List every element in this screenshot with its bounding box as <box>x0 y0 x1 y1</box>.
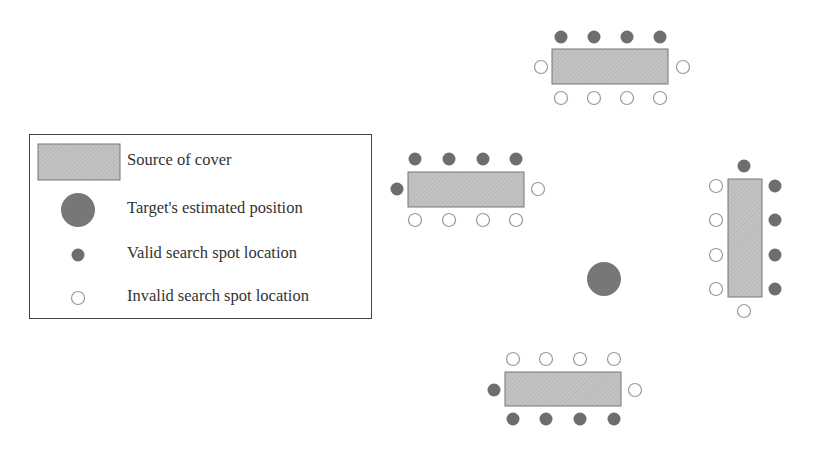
legend-target-symbol <box>61 193 95 227</box>
valid-spot <box>477 153 490 166</box>
invalid-spot <box>710 249 723 262</box>
valid-spot <box>738 160 751 173</box>
invalid-spot <box>540 353 553 366</box>
invalid-spot <box>574 353 587 366</box>
invalid-spot <box>710 283 723 296</box>
valid-spot <box>409 153 422 166</box>
valid-spot <box>588 31 601 44</box>
valid-spot <box>608 413 621 426</box>
invalid-spot <box>532 183 545 196</box>
valid-spot <box>507 413 520 426</box>
legend-invalid-symbol <box>72 292 85 305</box>
invalid-spot <box>443 214 456 227</box>
valid-spot <box>540 413 553 426</box>
valid-search-spots <box>391 31 782 426</box>
valid-spot <box>769 249 782 262</box>
target-estimated-position <box>587 262 621 296</box>
cover-top <box>552 49 668 84</box>
legend-valid-symbol <box>72 249 85 262</box>
invalid-spot <box>477 214 490 227</box>
cover-left-middle <box>408 172 524 207</box>
invalid-spot <box>535 61 548 74</box>
legend-cover-symbol <box>38 144 120 180</box>
valid-spot <box>510 153 523 166</box>
cover-right <box>728 179 762 297</box>
invalid-spot <box>621 92 634 105</box>
invalid-spot <box>555 92 568 105</box>
invalid-spot <box>510 214 523 227</box>
valid-spot <box>443 153 456 166</box>
invalid-spot <box>654 92 667 105</box>
invalid-spot <box>507 353 520 366</box>
valid-spot <box>769 214 782 227</box>
invalid-spot <box>409 214 422 227</box>
cover-bottom <box>505 372 621 406</box>
legend-label-invalid: Invalid search spot location <box>127 286 309 306</box>
legend-label-target: Target's estimated position <box>127 198 303 218</box>
invalid-spot <box>738 305 751 318</box>
invalid-spot <box>608 353 621 366</box>
legend-label-valid: Valid search spot location <box>127 243 297 263</box>
valid-spot <box>488 384 501 397</box>
valid-spot <box>555 31 568 44</box>
legend: Source of cover Target's estimated posit… <box>29 134 372 319</box>
cover-sources <box>408 49 762 406</box>
valid-spot <box>574 413 587 426</box>
invalid-spot <box>677 61 690 74</box>
invalid-spot <box>588 92 601 105</box>
invalid-spot <box>710 214 723 227</box>
valid-spot <box>769 283 782 296</box>
legend-label-cover: Source of cover <box>127 150 231 170</box>
invalid-search-spots <box>409 61 751 397</box>
invalid-spot <box>710 180 723 193</box>
valid-spot <box>769 180 782 193</box>
invalid-spot <box>629 384 642 397</box>
valid-spot <box>654 31 667 44</box>
valid-spot <box>621 31 634 44</box>
valid-spot <box>391 183 404 196</box>
